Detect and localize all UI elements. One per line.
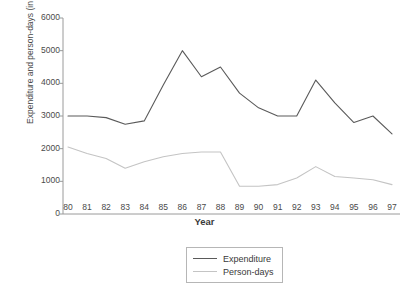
legend-item: Person-days <box>193 265 274 278</box>
y-tick-label: 6000 <box>20 13 60 22</box>
series-line-person-days <box>68 147 392 186</box>
x-tick-label: 84 <box>134 202 154 212</box>
y-tick-label: 5000 <box>20 46 60 55</box>
x-tick-label: 87 <box>191 202 211 212</box>
chart-legend: ExpenditurePerson-days <box>186 247 283 283</box>
x-tick-label: 83 <box>115 202 135 212</box>
series-line-expenditure <box>68 51 392 134</box>
plot-svg <box>63 18 400 214</box>
x-tick-label: 86 <box>172 202 192 212</box>
y-tick-label: 3000 <box>20 111 60 120</box>
x-tick-label: 90 <box>249 202 269 212</box>
x-tick-label: 96 <box>363 202 383 212</box>
y-tick-label: 4000 <box>20 78 60 87</box>
legend-label: Expenditure <box>223 254 271 264</box>
x-tick-label: 81 <box>77 202 97 212</box>
x-axis-title: Year <box>0 216 409 227</box>
y-tick-label: 2000 <box>20 144 60 153</box>
x-tick-label: 85 <box>153 202 173 212</box>
y-tick-label: 1000 <box>20 176 60 185</box>
legend-item: Expenditure <box>193 252 274 265</box>
x-tick-label: 97 <box>382 202 402 212</box>
x-tick-label: 93 <box>306 202 326 212</box>
x-tick-label: 92 <box>287 202 307 212</box>
x-tick-label: 82 <box>96 202 116 212</box>
plot-area <box>63 18 400 214</box>
line-chart: Expenditure and person-days (in lakhs) 0… <box>0 0 409 299</box>
x-tick-label: 80 <box>58 202 78 212</box>
x-tick-label: 89 <box>230 202 250 212</box>
legend-swatch-icon <box>193 271 217 272</box>
y-axis-tick-labels: 0100020003000400050006000 <box>14 18 60 214</box>
x-tick-label: 94 <box>325 202 345 212</box>
x-tick-label: 88 <box>210 202 230 212</box>
legend-label: Person-days <box>223 267 274 277</box>
x-axis-tick-labels: 808182838485868788899091929394959697 <box>63 202 400 216</box>
legend-swatch-icon <box>193 258 217 259</box>
x-tick-label: 91 <box>268 202 288 212</box>
x-tick-label: 95 <box>344 202 364 212</box>
